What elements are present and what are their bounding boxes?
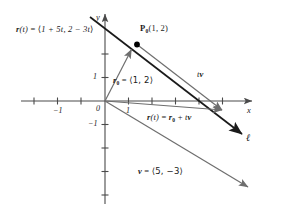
label-vector-equation: r(t) = r0 + tv bbox=[147, 113, 192, 123]
x-tick-label-neg1: −1 bbox=[53, 107, 62, 115]
label-line-ell: ℓ bbox=[246, 133, 250, 143]
y-tick-label-neg1: −1 bbox=[88, 120, 97, 128]
origin-label: 0 bbox=[96, 105, 100, 113]
point-p0-dot bbox=[134, 42, 140, 48]
label-tv: tv bbox=[197, 70, 204, 79]
vector-line-diagram: r(t) = ⟨1 + 5t, 2 − 3t⟩ P0(1, 2) r0 = ⟨1… bbox=[0, 0, 306, 213]
label-v-vector: v = ⟨5, −3⟩ bbox=[138, 167, 183, 176]
x-tick-label-1: 1 bbox=[126, 107, 130, 115]
axis-label-x: x bbox=[247, 106, 251, 115]
label-r-zero: r0 = ⟨1, 2⟩ bbox=[113, 76, 153, 86]
label-parametric-vector: r(t) = ⟨1 + 5t, 2 − 3t⟩ bbox=[16, 25, 94, 34]
axis-label-y: y bbox=[96, 13, 100, 22]
label-point-p0: P0(1, 2) bbox=[140, 24, 168, 34]
y-tick-label-1: 1 bbox=[93, 73, 97, 81]
y-axis bbox=[102, 14, 109, 204]
